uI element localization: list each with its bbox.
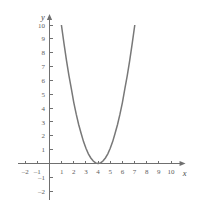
- x-tick-label-6: 6: [121, 168, 125, 176]
- x-tick-label-10: 10: [168, 168, 176, 176]
- y-tick-label-2: 2: [42, 132, 46, 140]
- y-tick-label-3: 3: [42, 119, 46, 127]
- y-tick-label--1: –1: [37, 174, 46, 182]
- y-tick-label-7: 7: [42, 63, 46, 71]
- y-tick-label-8: 8: [42, 49, 46, 57]
- y-axis-label: y: [40, 12, 45, 22]
- x-tick-label-8: 8: [145, 168, 149, 176]
- x-tick-label-2: 2: [72, 168, 76, 176]
- parabola-curve: [61, 25, 134, 164]
- x-axis-arrow-icon: [180, 161, 186, 166]
- x-tick-label-1: 1: [60, 168, 64, 176]
- x-tick-label-5: 5: [109, 168, 113, 176]
- y-tick-label-10: 10: [38, 22, 46, 30]
- y-tick-label-4: 4: [42, 105, 46, 113]
- y-tick-label-9: 9: [42, 35, 46, 43]
- y-tick-label-5: 5: [42, 91, 46, 99]
- y-axis-arrow-icon: [47, 14, 52, 20]
- y-tick-label--2: –2: [37, 188, 46, 196]
- y-tick-label-1: 1: [42, 146, 46, 154]
- x-tick-label-4: 4: [96, 168, 100, 176]
- y-tick-label-6: 6: [42, 77, 46, 85]
- graph-figure: –2–112345678910–2–112345678910xy: [0, 0, 201, 208]
- x-tick-label-3: 3: [84, 168, 88, 176]
- x-tick-label-7: 7: [133, 168, 137, 176]
- parabola-plot: –2–112345678910–2–112345678910xy: [0, 0, 201, 208]
- x-axis-label: x: [182, 168, 187, 178]
- x-tick-label--2: –2: [21, 168, 30, 176]
- x-tick-label-9: 9: [157, 168, 161, 176]
